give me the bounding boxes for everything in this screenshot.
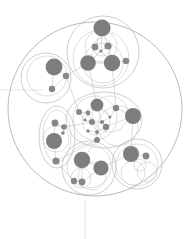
cluster-bottom-right-node[interactable] bbox=[143, 153, 150, 160]
cluster-top-node[interactable] bbox=[92, 44, 99, 51]
inter-cluster-edge bbox=[66, 76, 79, 112]
cluster-left-hull bbox=[27, 56, 67, 96]
cluster-top-node[interactable] bbox=[99, 49, 102, 52]
cluster-top-node[interactable] bbox=[80, 55, 96, 71]
inter-cluster-edge bbox=[64, 122, 92, 127]
cluster-center-node[interactable] bbox=[76, 109, 82, 115]
diagram-root bbox=[0, 0, 191, 239]
inter-cluster-edge bbox=[56, 161, 74, 181]
axis-layer bbox=[0, 90, 85, 239]
cluster-center-node[interactable] bbox=[95, 130, 99, 134]
cluster-lower-left-node[interactable] bbox=[61, 124, 67, 130]
cluster-top-node[interactable] bbox=[94, 20, 111, 37]
cluster-top-node[interactable] bbox=[104, 42, 111, 49]
cluster-center-node[interactable] bbox=[100, 120, 104, 124]
cluster-center-node[interactable] bbox=[103, 124, 109, 130]
cluster-center-node[interactable] bbox=[113, 105, 119, 111]
cluster-bottom-center-node[interactable] bbox=[93, 160, 108, 175]
cluster-center-node[interactable] bbox=[89, 119, 95, 125]
cluster-center-node[interactable] bbox=[86, 129, 89, 132]
cluster-left-node[interactable] bbox=[63, 73, 69, 79]
cluster-bottom-right-hull bbox=[121, 161, 145, 185]
cluster-lower-left-node[interactable] bbox=[61, 131, 65, 135]
circle-packing-graph bbox=[0, 0, 191, 239]
cluster-top-node[interactable] bbox=[104, 55, 120, 71]
cluster-bottom-right-hull bbox=[112, 139, 162, 189]
cluster-lower-left-node[interactable] bbox=[46, 133, 62, 149]
cluster-center-node[interactable] bbox=[94, 137, 100, 143]
cluster-top-node[interactable] bbox=[123, 58, 129, 64]
cluster-center-node[interactable] bbox=[91, 99, 104, 112]
cluster-center-node[interactable] bbox=[109, 116, 112, 119]
cluster-lower-left-node[interactable] bbox=[52, 157, 59, 164]
cluster-center-node[interactable] bbox=[83, 118, 86, 121]
cluster-center-node[interactable] bbox=[86, 111, 91, 116]
cluster-left-node[interactable] bbox=[49, 86, 55, 92]
cluster-lower-left-node[interactable] bbox=[52, 120, 59, 127]
cluster-bottom-center-node[interactable] bbox=[79, 179, 86, 186]
cluster-center-node[interactable] bbox=[125, 108, 141, 124]
cluster-bottom-center-node[interactable] bbox=[74, 152, 90, 168]
cluster-left-node[interactable] bbox=[46, 59, 63, 76]
cluster-bottom-center-node[interactable] bbox=[71, 178, 77, 184]
cluster-bottom-right-node[interactable] bbox=[123, 146, 139, 162]
